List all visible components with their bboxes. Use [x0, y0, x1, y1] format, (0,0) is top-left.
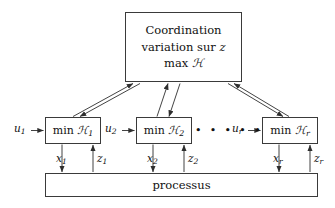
subsystem-r-prefix: min [270, 124, 295, 137]
coordination-line-2-variable: z [220, 40, 226, 54]
label-u1: u1 [14, 122, 26, 136]
label-z2-sub: 2 [194, 157, 199, 166]
label-u2-var: u [105, 122, 112, 134]
subsystem-1-label: min ℋ1 [53, 124, 94, 138]
label-zr: zr [314, 152, 323, 166]
subsystem-2-prefix: min [144, 124, 169, 137]
subsystem-2-hamiltonian: ℋ [168, 124, 179, 137]
arrow-subsystem-1-to-coordination [73, 84, 133, 117]
subsystem-r-box: min ℋr [262, 117, 318, 144]
subsystem-r-label: min ℋr [270, 124, 309, 138]
coordination-line-1: Coordination [145, 22, 221, 39]
label-u1-sub: 1 [21, 127, 26, 136]
subsystem-1-index: 1 [88, 128, 93, 137]
coordination-line-2-prefix: variation sur [141, 40, 219, 54]
subsystem-1-box: min ℋ1 [45, 117, 101, 144]
label-xr-sub: r [279, 157, 283, 166]
process-box: processus [45, 173, 318, 197]
arrow-coordination-to-subsystem-1 [80, 84, 140, 117]
label-xr: xr [273, 152, 283, 166]
label-u2: u2 [105, 122, 117, 136]
label-ur-var: u [232, 122, 239, 134]
label-x2-sub: 2 [153, 157, 158, 166]
arrow-coordination-to-subsystem-2 [169, 84, 180, 117]
label-zr-sub: r [320, 157, 324, 166]
arrow-coordination-to-subsystem-r [228, 84, 283, 117]
coordination-line-2: variation sur z [141, 39, 225, 56]
subsystem-2-box: min ℋ2 [136, 117, 192, 144]
label-ur-sub: r [239, 127, 243, 136]
subsystem-r-hamiltonian: ℋ [295, 124, 306, 137]
coordination-box: Coordination variation sur z max ℋ [125, 12, 242, 82]
label-z2: z2 [188, 152, 198, 166]
label-z1: z1 [97, 152, 107, 166]
coordination-line-3-prefix: max [164, 56, 192, 70]
subsystem-r-index: r [306, 128, 310, 137]
diagram-canvas: Coordination variation sur z max ℋ min ℋ… [0, 0, 335, 208]
arrow-subsystem-2-to-coordination [157, 84, 168, 117]
process-label: processus [152, 178, 210, 192]
label-u2-sub: 2 [112, 127, 117, 136]
subsystem-2-index: 2 [179, 128, 184, 137]
label-ur: ur [232, 122, 242, 136]
coordination-line-3: max ℋ [164, 55, 203, 72]
coordination-line-3-hamiltonian: ℋ [192, 56, 203, 70]
label-x1: x1 [56, 152, 67, 166]
subsystem-2-label: min ℋ2 [144, 124, 185, 138]
ellipsis-dots: • • • • • [195, 124, 263, 137]
label-z1-sub: 1 [103, 157, 108, 166]
subsystem-1-prefix: min [53, 124, 78, 137]
label-u1-var: u [14, 122, 21, 134]
label-x1-sub: 1 [62, 157, 67, 166]
label-x2: x2 [147, 152, 158, 166]
arrow-subsystem-r-to-coordination [234, 84, 289, 117]
subsystem-1-hamiltonian: ℋ [77, 124, 88, 137]
